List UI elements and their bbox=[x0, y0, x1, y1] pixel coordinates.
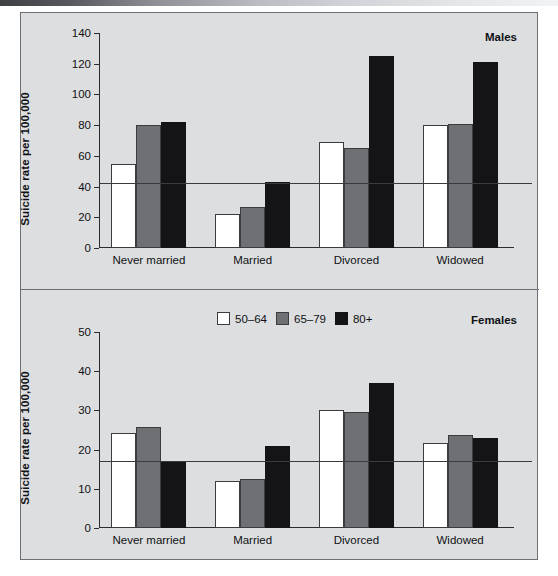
bar bbox=[265, 446, 290, 528]
y-tick bbox=[94, 248, 99, 249]
y-tick bbox=[94, 187, 99, 188]
bar-group: Widowed bbox=[423, 332, 498, 528]
legend-label: 80+ bbox=[353, 313, 373, 325]
bar bbox=[473, 438, 498, 528]
legend-swatch-c50 bbox=[217, 312, 230, 325]
y-tick bbox=[94, 217, 99, 218]
y-tick-label: 30 bbox=[78, 404, 91, 416]
bar-group: Married bbox=[215, 33, 290, 248]
bar bbox=[136, 125, 161, 248]
y-tick bbox=[94, 450, 99, 451]
bar bbox=[448, 435, 473, 528]
bar-group: Divorced bbox=[319, 332, 394, 528]
chart-panel-males: Suicide rate per 100,000 Males 020406080… bbox=[21, 13, 539, 289]
bar bbox=[240, 479, 265, 528]
y-tick bbox=[94, 371, 99, 372]
page-top-band bbox=[0, 0, 558, 6]
y-axis-females bbox=[99, 332, 100, 528]
legend-swatch-c65 bbox=[276, 312, 289, 325]
bar-group: Widowed bbox=[423, 33, 498, 248]
bar bbox=[473, 62, 498, 248]
bar bbox=[240, 207, 265, 248]
x-category-label: Never married bbox=[111, 534, 186, 546]
y-tick-label: 140 bbox=[72, 27, 91, 39]
x-category-label: Married bbox=[215, 254, 290, 266]
plot-area-females: 01020304050Never marriedMarriedDivorcedW… bbox=[99, 332, 514, 528]
y-tick-label: 100 bbox=[72, 88, 91, 100]
y-tick-label: 20 bbox=[78, 211, 91, 223]
x-category-label: Divorced bbox=[319, 534, 394, 546]
y-axis-label-females: Suicide rate per 100,000 bbox=[19, 338, 31, 538]
y-tick bbox=[94, 332, 99, 333]
bar bbox=[215, 481, 240, 528]
bar-group: Divorced bbox=[319, 33, 394, 248]
bar bbox=[448, 124, 473, 248]
bar bbox=[111, 433, 136, 528]
chart-panel-females: Suicide rate per 100,000 Females 50–6465… bbox=[21, 289, 539, 559]
x-category-label: Widowed bbox=[423, 534, 498, 546]
y-tick bbox=[94, 528, 99, 529]
y-tick-label: 50 bbox=[78, 326, 91, 338]
bar-group: Married bbox=[215, 332, 290, 528]
bar bbox=[161, 461, 186, 528]
y-tick-label: 40 bbox=[78, 365, 91, 377]
y-tick bbox=[94, 489, 99, 490]
legend-item: 65–79 bbox=[276, 312, 326, 325]
y-axis-males bbox=[99, 33, 100, 248]
plot-area-males: 020406080100120140Never marriedMarriedDi… bbox=[99, 33, 514, 248]
y-tick-label: 20 bbox=[78, 444, 91, 456]
y-tick-label: 60 bbox=[78, 150, 91, 162]
y-tick-label: 10 bbox=[78, 483, 91, 495]
y-tick bbox=[94, 33, 99, 34]
bar bbox=[136, 427, 161, 528]
x-category-label: Married bbox=[215, 534, 290, 546]
y-tick-label: 0 bbox=[85, 242, 91, 254]
bar bbox=[319, 142, 344, 248]
bar bbox=[111, 164, 136, 248]
legend-item: 80+ bbox=[335, 312, 373, 325]
x-category-label: Widowed bbox=[423, 254, 498, 266]
reference-line bbox=[99, 461, 532, 462]
bar bbox=[215, 214, 240, 248]
y-tick bbox=[94, 410, 99, 411]
legend-item: 50–64 bbox=[217, 312, 267, 325]
bar bbox=[423, 125, 448, 248]
reference-line bbox=[99, 183, 532, 184]
bar bbox=[344, 412, 369, 528]
y-tick bbox=[94, 94, 99, 95]
y-tick-label: 120 bbox=[72, 58, 91, 70]
bar-group: Never married bbox=[111, 332, 186, 528]
y-tick bbox=[94, 125, 99, 126]
x-category-label: Never married bbox=[111, 254, 186, 266]
y-tick-label: 40 bbox=[78, 181, 91, 193]
y-tick-label: 80 bbox=[78, 119, 91, 131]
figure-page: Suicide rate per 100,000 Males 020406080… bbox=[0, 0, 558, 576]
bar bbox=[423, 443, 448, 528]
bar bbox=[161, 122, 186, 248]
bar bbox=[265, 182, 290, 248]
bar bbox=[344, 148, 369, 248]
y-axis-label-males: Suicide rate per 100,000 bbox=[19, 59, 31, 259]
figure-frame: Suicide rate per 100,000 Males 020406080… bbox=[20, 12, 538, 560]
y-tick-label: 0 bbox=[85, 522, 91, 534]
bar bbox=[369, 56, 394, 248]
y-tick bbox=[94, 64, 99, 65]
panel-title-females: Females bbox=[471, 314, 517, 326]
bar-group: Never married bbox=[111, 33, 186, 248]
bar bbox=[369, 383, 394, 528]
y-tick bbox=[94, 156, 99, 157]
x-category-label: Divorced bbox=[319, 254, 394, 266]
legend: 50–6465–7980+ bbox=[217, 312, 372, 325]
bar bbox=[319, 410, 344, 528]
legend-swatch-c80 bbox=[335, 312, 348, 325]
legend-label: 50–64 bbox=[235, 313, 267, 325]
legend-label: 65–79 bbox=[294, 313, 326, 325]
